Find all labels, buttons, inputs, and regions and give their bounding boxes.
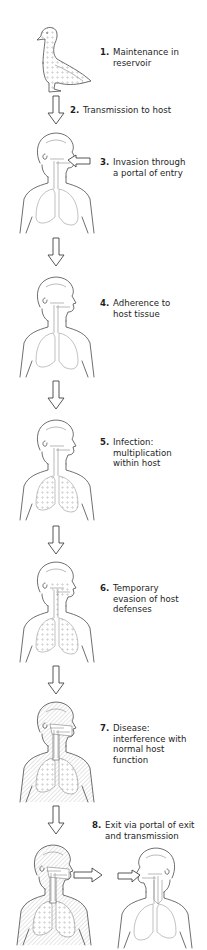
step-5-label: 5. Infection: multiplication within host xyxy=(100,437,207,469)
human-clear-figure xyxy=(20,277,100,382)
step-text: Infection: multiplication within host xyxy=(100,437,207,469)
down-arrow-icon xyxy=(48,666,65,696)
infected-host-figure xyxy=(17,845,97,950)
right-arrow-icon xyxy=(74,868,104,882)
human-with-entry-arrow-figure xyxy=(20,133,130,238)
step-4-label: 4. Adherence to host tissue xyxy=(100,298,207,319)
step-number: 5. xyxy=(100,437,109,448)
down-arrow-icon xyxy=(48,806,65,836)
human-dotted-respiratory-figure xyxy=(20,562,100,667)
step-8-label: 8. Exit via portal of exit and transmiss… xyxy=(92,820,207,841)
step-text: Disease: interference with normal host f… xyxy=(100,723,207,765)
step-6-label: 6. Temporary evasion of host defenses xyxy=(100,583,207,615)
step-text: Temporary evasion of host defenses xyxy=(100,583,207,615)
step-number: 6. xyxy=(100,583,109,594)
duck-reservoir-figure xyxy=(25,25,95,95)
step-number: 3. xyxy=(100,157,109,168)
step-text: Invasion through a portal of entry xyxy=(100,157,207,178)
step-2-label: 2. Transmission to host xyxy=(70,105,207,116)
down-arrow-icon xyxy=(48,238,65,268)
down-arrow-icon xyxy=(48,381,65,411)
step-3-label: 3. Invasion through a portal of entry xyxy=(100,157,207,178)
step-1-label: 1. Maintenance in reservoir xyxy=(100,47,200,68)
step-text: Exit via portal of exit and transmission xyxy=(92,820,207,841)
down-arrow-icon xyxy=(48,96,65,126)
step-text: Adherence to host tissue xyxy=(100,298,207,319)
step-number: 4. xyxy=(100,298,109,309)
step-text: Transmission to host xyxy=(70,105,207,116)
human-dotted-lungs-figure xyxy=(20,420,100,525)
step-number: 1. xyxy=(100,47,109,58)
step-7-label: 7. Disease: interference with normal hos… xyxy=(100,723,207,765)
step-text: Maintenance in reservoir xyxy=(100,47,200,68)
human-hatched-body-figure xyxy=(20,702,100,807)
step-number: 7. xyxy=(100,723,109,734)
down-arrow-icon xyxy=(48,526,65,556)
new-host-figure xyxy=(118,848,198,948)
step-number: 2. xyxy=(70,105,79,116)
step-number: 8. xyxy=(92,820,101,831)
